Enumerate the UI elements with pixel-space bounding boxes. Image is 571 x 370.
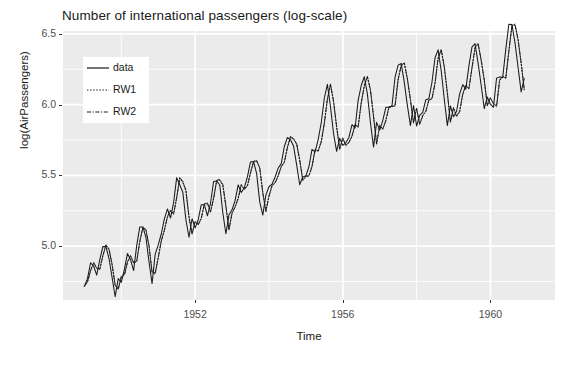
x-axis-label: Time — [63, 330, 555, 342]
legend-label: RW2 — [113, 105, 136, 117]
x-tick-mark — [490, 300, 491, 303]
y-tick-mark — [59, 175, 62, 176]
y-tick-mark — [59, 246, 62, 247]
x-tick-label: 1952 — [165, 308, 225, 320]
legend-key-solid — [86, 57, 110, 79]
x-tick-mark — [195, 300, 196, 303]
y-tick-mark — [59, 34, 62, 35]
legend-label: data — [113, 61, 133, 73]
legend-label: RW1 — [113, 83, 136, 95]
x-tick-mark — [343, 300, 344, 303]
y-tick-label: 6.0 — [26, 98, 56, 110]
legend-item-RW2: RW2 — [83, 101, 149, 123]
y-tick-mark — [59, 105, 62, 106]
y-tick-label: 5.0 — [26, 239, 56, 251]
legend-item-data: data — [83, 57, 149, 79]
legend-key-dotted — [86, 79, 110, 101]
chart-legend: dataRW1RW2 — [83, 57, 149, 123]
y-tick-label: 6.5 — [26, 27, 56, 39]
y-tick-label: 5.5 — [26, 168, 56, 180]
legend-item-RW1: RW1 — [83, 79, 149, 101]
chart-container: Number of international passengers (log-… — [0, 0, 571, 370]
x-tick-label: 1960 — [460, 308, 520, 320]
x-tick-label: 1956 — [313, 308, 373, 320]
legend-key-dashdot — [86, 101, 110, 123]
